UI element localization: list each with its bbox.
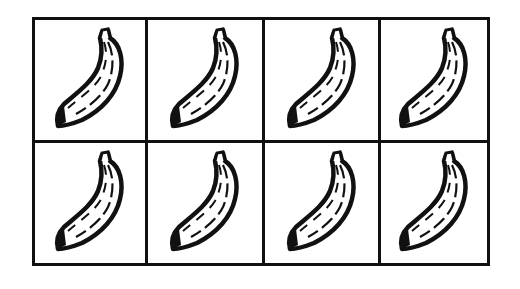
grid-cell — [35, 143, 148, 263]
banana-icon — [394, 149, 474, 257]
banana-icon — [165, 149, 245, 257]
grid-cell — [148, 20, 265, 143]
banana-icon — [282, 149, 362, 257]
grid-cell — [265, 20, 381, 143]
grid-cell — [381, 20, 487, 143]
grid-cell — [381, 143, 487, 263]
banana-icon — [50, 26, 130, 134]
grid-cell — [35, 20, 148, 143]
banana-icon — [50, 149, 130, 257]
grid-cell — [148, 143, 265, 263]
banana-icon — [165, 26, 245, 134]
banana-icon — [394, 26, 474, 134]
grid-cell — [265, 143, 381, 263]
banana-icon — [282, 26, 362, 134]
banana-picture-grid — [32, 17, 490, 266]
